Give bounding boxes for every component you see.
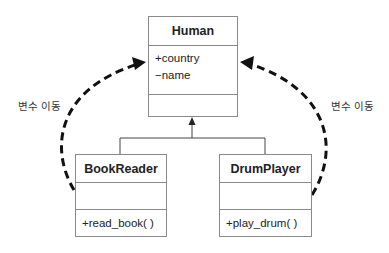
- methods-section: [149, 94, 237, 116]
- attributes-section: +country −name: [149, 45, 237, 94]
- method: +read_book( ): [82, 217, 154, 229]
- attribute: −name: [155, 67, 237, 84]
- attribute: +country: [155, 50, 237, 67]
- class-bookreader: BookReader +read_book( ): [75, 154, 167, 237]
- inheritance-arrowhead-icon: [189, 117, 196, 125]
- arrowhead-right-icon: [240, 56, 254, 70]
- class-drumplayer: DrumPlayer +play_drum( ): [219, 154, 312, 237]
- attributes-section: [76, 182, 166, 209]
- method: +play_drum( ): [226, 217, 297, 229]
- attributes-section: [220, 182, 311, 209]
- label-variable-move-right: 변수 이동: [331, 98, 374, 113]
- inheritance-connector: [120, 124, 265, 154]
- arrowhead-left-icon: [132, 57, 146, 70]
- class-name: DrumPlayer: [220, 155, 311, 182]
- label-variable-move-left: 변수 이동: [18, 98, 61, 113]
- class-name: BookReader: [76, 155, 166, 182]
- class-human: Human +country −name: [148, 16, 238, 117]
- methods-section: +read_book( ): [76, 209, 166, 236]
- methods-section: +play_drum( ): [220, 209, 311, 236]
- class-name: Human: [149, 17, 237, 45]
